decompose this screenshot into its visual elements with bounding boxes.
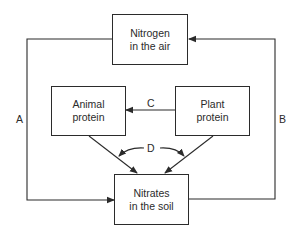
edge-label-c: C (147, 97, 155, 109)
node-nitrates-soil: Nitrates in the soil (114, 174, 189, 225)
d-curve-right (160, 148, 184, 156)
node-label: in the soil (129, 200, 173, 213)
node-label: in the air (130, 40, 170, 53)
node-label: Nitrogen (130, 27, 170, 40)
node-plant-protein: Plant protein (175, 86, 250, 136)
edge-d-plant (165, 136, 213, 173)
node-label: Plant (201, 98, 225, 111)
edge-label-b: B (279, 113, 286, 125)
d-curve-left (119, 148, 144, 156)
edge-label-a: A (16, 113, 23, 125)
nitrogen-cycle-diagram: Nitrogen in the air Animal protein Plant… (0, 0, 296, 237)
edge-label-d: D (147, 142, 155, 154)
node-label: protein (196, 111, 228, 124)
node-label: protein (72, 111, 104, 124)
node-label: Nitrates (133, 187, 169, 200)
node-animal-protein: Animal protein (51, 86, 126, 136)
node-label: Animal (72, 98, 104, 111)
node-nitrogen-air: Nitrogen in the air (112, 14, 188, 65)
edge-d-animal (89, 136, 137, 173)
